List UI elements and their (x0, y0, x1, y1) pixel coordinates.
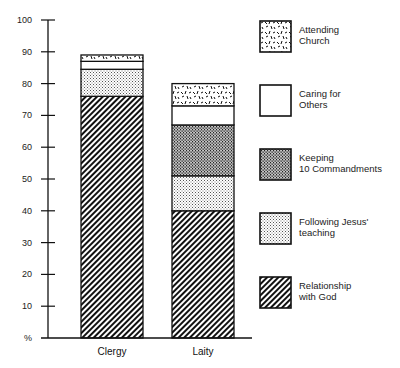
legend-swatch (260, 277, 291, 308)
bars (81, 55, 234, 338)
legend-swatch (260, 21, 291, 52)
legend-swatch (260, 85, 291, 116)
y-tick-label: 10 (22, 301, 32, 311)
bar-segment-keeping-10-commandments (172, 125, 234, 176)
legend-label: Following Jesus' (299, 216, 369, 227)
x-axis: ClergyLaity (41, 338, 252, 357)
bar-segment-relationship-with-god (172, 211, 234, 338)
bar-laity (172, 84, 234, 338)
y-axis: %102030405060708090100 (17, 15, 55, 343)
y-tick-label: 60 (22, 142, 32, 152)
legend-item: Caring forOthers (260, 85, 341, 116)
legend-label: Relationship (299, 280, 351, 291)
legend-item: Following Jesus'teaching (260, 213, 369, 244)
y-tick-label: 80 (22, 79, 32, 89)
legend-label: Attending (299, 24, 339, 35)
legend-label: Others (299, 99, 328, 110)
bar-segment-following-jesus-teaching (81, 69, 143, 96)
legend-label: Keeping (299, 152, 334, 163)
legend-item: AttendingChurch (260, 21, 339, 52)
y-tick-label: 70 (22, 110, 32, 120)
bar-segment-relationship-with-god (81, 96, 143, 338)
legend-item: Relationshipwith God (260, 277, 351, 308)
bar-segment-caring-for-others (172, 106, 234, 125)
y-tick-label: 20 (22, 269, 32, 279)
legend-label: Church (299, 35, 330, 46)
bar-segment-attending-church (81, 55, 143, 61)
legend-swatch (260, 213, 291, 244)
legend-label: 10 Commandments (299, 163, 382, 174)
y-tick-label: % (24, 333, 32, 343)
legend: AttendingChurchCaring forOthersKeeping10… (260, 21, 382, 308)
legend-swatch (260, 149, 291, 180)
legend-label: with God (298, 291, 337, 302)
stacked-bar-chart: %102030405060708090100 ClergyLaity Atten… (0, 0, 400, 368)
bar-segment-attending-church (172, 84, 234, 106)
y-tick-label: 100 (17, 15, 32, 25)
y-tick-label: 50 (22, 174, 32, 184)
x-category-label: Laity (192, 346, 213, 357)
y-tick-label: 30 (22, 238, 32, 248)
bar-segment-caring-for-others (81, 61, 143, 69)
bar-clergy (81, 55, 143, 338)
legend-label: Caring for (299, 88, 341, 99)
bar-segment-following-jesus-teaching (172, 176, 234, 211)
y-tick-label: 90 (22, 47, 32, 57)
legend-label: teaching (299, 227, 335, 238)
x-category-label: Clergy (98, 346, 127, 357)
y-tick-label: 40 (22, 206, 32, 216)
legend-item: Keeping10 Commandments (260, 149, 382, 180)
